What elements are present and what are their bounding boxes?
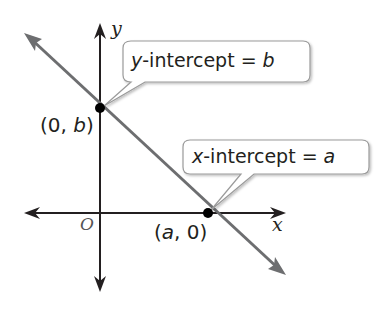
y-intercept-point-label: (0, b) bbox=[40, 113, 94, 137]
point-label-prefix: ( bbox=[154, 220, 162, 244]
callout-text: -intercept = bbox=[203, 145, 323, 167]
y-intercept-point bbox=[95, 103, 105, 113]
callout-var: a bbox=[324, 145, 336, 167]
point-label-var: a bbox=[162, 220, 174, 244]
callout-var: y bbox=[131, 49, 142, 71]
point-label-var: b bbox=[73, 113, 86, 137]
point-label-prefix: (0, bbox=[40, 113, 73, 137]
y-axis-label: y bbox=[111, 17, 122, 39]
intercept-diagram: y x O (0, b) (a, 0) y-intercept = b x-in… bbox=[0, 0, 389, 310]
x-axis-label: x bbox=[272, 213, 283, 235]
x-intercept-point bbox=[203, 208, 213, 218]
x-intercept-point-label: (a, 0) bbox=[154, 220, 207, 244]
point-label-suffix: ) bbox=[86, 113, 94, 137]
callout-text: -intercept = bbox=[142, 49, 262, 71]
point-label-suffix: , 0) bbox=[174, 220, 207, 244]
callout-var: x bbox=[192, 145, 203, 167]
origin-label: O bbox=[80, 214, 94, 234]
callout-var: b bbox=[263, 49, 275, 71]
x-intercept-callout-text: x-intercept = a bbox=[192, 145, 335, 167]
y-axis bbox=[94, 23, 106, 292]
x-axis bbox=[24, 207, 286, 219]
y-intercept-callout-text: y-intercept = b bbox=[131, 49, 275, 71]
